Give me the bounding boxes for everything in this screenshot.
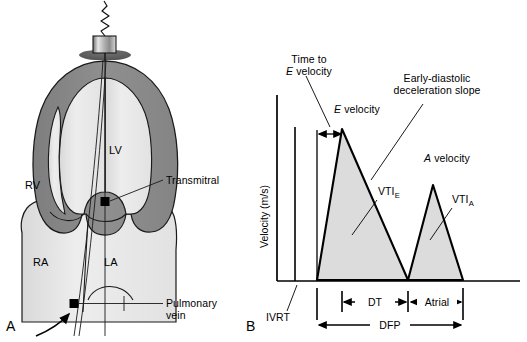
vti-e-subscript: E [395,191,400,200]
interval-label-atrial: Atrial [417,296,457,308]
chamber-label-lv: LV [109,144,122,156]
annotation-deceleration-slope-line2: deceleration slope [382,84,492,96]
transducer-icon [93,36,116,53]
interval-label-ivrt: IVRT [266,311,290,323]
vti-e-base: VTI [378,185,395,197]
vti-a-base: VTI [452,193,469,205]
annotation-time-to-e-line2: E velocity [272,65,346,77]
chamber-label-rv: RV [25,179,40,191]
annotation-transmitral: Transmitral [166,174,219,186]
sample-volume-pulmonary-vein [70,299,79,308]
y-axis-label: Velocity (m/s) [258,185,270,248]
panel-label-b: B [246,320,255,332]
time-to-e-leader-line [306,76,330,127]
transducer-cable [101,1,109,36]
annotation-a-velocity: A velocity [424,152,470,164]
panel-a-anatomy [21,1,177,336]
figure-root: LV RV LA RA Transmitral Pulmonary vein A… [0,0,527,342]
annotation-vti-e: VTIE [378,185,400,202]
annotation-pulmonary-vein-line2: vein [166,309,186,321]
annotation-deceleration-slope-line1: Early-diastolic [382,72,492,84]
e-wave-area [317,129,408,280]
vti-a-subscript: A [469,199,474,208]
ivrt-leader-line [287,285,297,311]
chamber-label-ra: RA [33,256,48,268]
deceleration-slope-leader-line [371,104,423,180]
annotation-vti-a: VTIA [452,193,474,210]
figure-canvas [0,0,527,342]
chamber-label-la: LA [104,256,118,268]
panel-label-a: A [6,320,15,332]
interval-label-dt: DT [355,296,395,308]
annotation-pulmonary-vein-line1: Pulmonary [166,297,217,309]
interval-label-dfp: DFP [370,319,410,331]
annotation-time-to-e-line1: Time to [274,53,344,65]
sample-volume-transmitral [101,197,110,206]
annotation-e-velocity: E velocity [334,103,380,115]
